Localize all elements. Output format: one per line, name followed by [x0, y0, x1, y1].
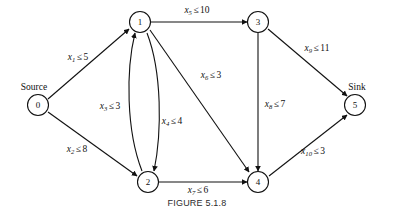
node-5-label: 5	[353, 100, 358, 110]
edge-label-x6: x6≤3	[201, 71, 221, 81]
edge-label-x5-rel: ≤	[192, 5, 200, 15]
node-0-label: 0	[36, 100, 41, 110]
edge-label-x5: x5≤10	[184, 6, 209, 16]
edge-label-x1-cap: 5	[83, 52, 88, 62]
edge-x2	[48, 112, 137, 176]
node-0[interactable]: 0	[28, 95, 49, 116]
edge-label-x6-rel: ≤	[208, 70, 216, 80]
edge-label-x1: x1≤5	[68, 53, 88, 63]
edge-label-x8-rel: ≤	[272, 99, 280, 109]
figure-caption: FIGURE 5.1.8	[0, 198, 394, 208]
node-1[interactable]: 1	[130, 12, 151, 33]
edge-label-x6-cap: 3	[216, 70, 221, 80]
edge-label-x9-cap: 11	[320, 43, 329, 53]
node-2[interactable]: 2	[138, 172, 159, 193]
edge-label-x6-sub: 6	[205, 74, 208, 81]
edge-label-x3: x3≤3	[100, 102, 120, 112]
edge-x1	[48, 29, 129, 99]
edge-label-x9-rel: ≤	[312, 43, 320, 53]
edge-label-x8: x8≤7	[265, 100, 285, 110]
edge-label-x7-cap: 6	[203, 185, 208, 195]
edge-label-x2: x2≤8	[67, 145, 87, 155]
edge-label-x5-cap: 10	[200, 5, 210, 15]
edge-label-x3-rel: ≤	[107, 101, 115, 111]
node-1-label: 1	[138, 17, 143, 27]
edge-label-x10: x10≤3	[301, 147, 325, 157]
edge-label-x2-sub: 2	[71, 148, 74, 155]
sink-label: Sink	[348, 82, 366, 92]
edge-label-x1-rel: ≤	[75, 52, 83, 62]
network-flow-figure: 0 1 2 3 4 5 Source Sink x1≤5 x2≤8	[0, 0, 394, 218]
edge-label-x4-rel: ≤	[169, 116, 177, 126]
edge-label-x4-sub: 4	[166, 120, 169, 127]
edge-x4	[147, 33, 159, 171]
edge-label-x4-cap: 4	[177, 116, 182, 126]
edge-x10	[269, 115, 347, 176]
edge-label-x10-rel: ≤	[312, 146, 320, 156]
node-4[interactable]: 4	[248, 172, 269, 193]
edge-label-x9: x9≤11	[305, 44, 330, 54]
edge-x6	[150, 30, 249, 172]
source-label: Source	[21, 82, 47, 92]
edge-label-x4: x4≤4	[162, 117, 182, 127]
edge-label-x7-sub: 7	[192, 189, 195, 196]
node-3[interactable]: 3	[248, 12, 269, 33]
edge-label-x3-cap: 3	[115, 101, 120, 111]
edge-label-x1-sub: 1	[72, 56, 75, 63]
edge-x9	[268, 29, 347, 96]
edge-x3	[129, 33, 142, 171]
edge-label-x2-cap: 8	[82, 144, 87, 154]
edge-label-x8-cap: 7	[280, 99, 285, 109]
node-5[interactable]: 5	[345, 95, 366, 116]
edge-label-x7: x7≤6	[188, 186, 208, 196]
edge-label-x3-sub: 3	[104, 105, 107, 112]
edge-label-x7-rel: ≤	[195, 185, 203, 195]
edge-label-x10-cap: 3	[320, 146, 325, 156]
node-4-label: 4	[256, 177, 261, 187]
edge-label-x2-rel: ≤	[74, 144, 82, 154]
node-2-label: 2	[146, 177, 151, 187]
edge-label-x9-sub: 9	[309, 47, 312, 54]
edge-label-x10-sub: 10	[305, 150, 312, 157]
edge-label-x5-sub: 5	[189, 9, 192, 16]
edge-label-x8-sub: 8	[269, 103, 272, 110]
node-3-label: 3	[256, 17, 261, 27]
